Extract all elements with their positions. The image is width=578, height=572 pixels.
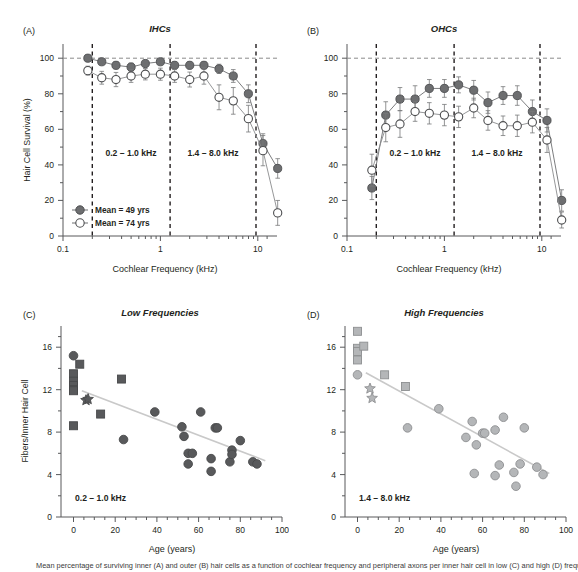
data-marker-filled — [484, 99, 492, 107]
panel-d-xlabel: Age (years) — [433, 544, 480, 554]
y-tick-16: 16 — [43, 342, 53, 352]
data-marker-open — [274, 209, 282, 217]
data-marker-filled — [84, 54, 92, 62]
data-marker-open — [455, 113, 463, 121]
y-tick-4: 4 — [47, 470, 52, 480]
data-marker-circle — [207, 467, 216, 476]
panel-a-plot: (A) IHCs 0 20 — [0, 0, 289, 286]
y-tick-60: 60 — [329, 124, 339, 134]
data-marker-open — [543, 136, 551, 144]
panel-c-low-frequencies: (C) Low Frequencies 0 4 8 12 — [0, 286, 289, 572]
data-marker-circle — [516, 460, 525, 469]
y-tick-80: 80 — [45, 89, 55, 99]
data-marker-filled — [513, 91, 521, 99]
data-marker-circle — [480, 429, 489, 438]
x-tick-80: 80 — [236, 525, 246, 535]
data-marker-square — [70, 422, 78, 430]
x-tick-10: 10 — [253, 244, 263, 254]
series-circles — [353, 371, 547, 491]
data-marker-open — [382, 123, 390, 131]
panel-b-x-ticklabels: 0.1 1 10 — [341, 244, 547, 254]
data-marker-filled — [440, 84, 448, 92]
y-tick-0: 0 — [47, 512, 52, 522]
panel-d-x-ticks — [358, 517, 567, 522]
series-stars — [81, 394, 94, 405]
panel-c-x-ticklabels: 0 20 40 60 80 100 — [71, 525, 289, 535]
data-marker-star — [367, 393, 378, 403]
panel-a-band-low: 0.2 – 1.0 kHz — [105, 148, 156, 158]
data-marker-open — [470, 104, 478, 112]
data-marker-square — [70, 387, 78, 395]
y-tick-8: 8 — [47, 427, 52, 437]
panel-a-y-ticklabels: 0 20 40 60 80 100 — [40, 53, 54, 241]
data-marker-square — [97, 410, 105, 418]
data-marker-circle — [151, 408, 160, 417]
panel-c-x-ticks — [74, 517, 283, 522]
panel-d-high-frequencies: (D) High Frequencies 0 4 8 12 — [289, 286, 578, 572]
data-marker-filled — [112, 61, 120, 69]
figure-container: (A) IHCs 0 20 — [0, 0, 578, 572]
data-marker-star — [365, 383, 376, 393]
data-marker-filled — [274, 164, 282, 172]
panel-c-y-ticklabels: 0 4 8 12 16 — [43, 342, 53, 522]
y-tick-0: 0 — [49, 231, 54, 241]
data-marker-open — [499, 122, 507, 130]
y-tick-60: 60 — [45, 124, 55, 134]
data-marker-circle — [533, 463, 542, 472]
panel-b-letter: (B) — [307, 26, 319, 36]
data-marker-filled — [455, 81, 463, 89]
series-mean-74 — [84, 66, 282, 225]
panel-c-plot: (C) Low Frequencies 0 4 8 12 — [0, 286, 289, 572]
data-marker-circle — [512, 482, 521, 491]
data-marker-square — [354, 327, 362, 335]
y-tick-100: 100 — [40, 53, 54, 63]
x-tick-0: 0 — [71, 525, 76, 535]
panel-b-xlabel: Cochlear Frequency (kHz) — [396, 264, 501, 274]
data-marker-circle — [510, 468, 519, 477]
data-marker-circle — [236, 436, 245, 445]
y-tick-4: 4 — [331, 470, 336, 480]
data-marker-open — [171, 72, 179, 80]
trendline — [366, 373, 549, 474]
y-tick-12: 12 — [327, 385, 337, 395]
data-marker-filled — [171, 61, 179, 69]
data-marker-open — [141, 70, 149, 78]
data-marker-open — [98, 74, 106, 82]
data-marker-filled — [244, 90, 252, 98]
figure-caption: Mean percentage of surviving inner (A) a… — [0, 559, 578, 572]
panel-d-x-ticklabels: 0 20 40 60 80 100 — [355, 525, 573, 535]
data-marker-circle — [472, 441, 481, 450]
data-marker-open — [244, 115, 252, 123]
panel-a-xlabel: Cochlear Frequency (kHz) — [112, 264, 217, 274]
panel-a-legend: Mean = 49 yrs Mean = 74 yrs — [72, 205, 150, 228]
data-marker-circle — [468, 417, 477, 426]
data-marker-circle — [207, 454, 216, 463]
data-marker-open — [112, 75, 120, 83]
data-marker-square — [381, 371, 389, 379]
data-marker-open — [84, 67, 92, 75]
data-marker-filled — [499, 91, 507, 99]
data-marker-open — [186, 75, 194, 83]
panel-c-letter: (C) — [23, 310, 36, 320]
data-marker-open — [200, 72, 208, 80]
panel-a-series-group — [84, 54, 282, 225]
x-tick-40: 40 — [152, 525, 162, 535]
data-marker-open — [259, 147, 267, 155]
panel-a-x-ticks — [63, 236, 267, 241]
panel-b-y-ticks — [342, 58, 347, 236]
data-marker-open — [513, 122, 521, 130]
data-marker-circle — [435, 404, 444, 413]
data-marker-square — [70, 370, 78, 378]
y-tick-8: 8 — [331, 427, 336, 437]
series-stars — [365, 383, 378, 403]
series-mean-74 — [368, 98, 566, 228]
data-marker-open — [411, 107, 419, 115]
x-tick-60: 60 — [194, 525, 204, 535]
x-tick-1: 1 — [158, 244, 163, 254]
y-tick-40: 40 — [329, 160, 339, 170]
y-tick-0: 0 — [333, 231, 338, 241]
x-tick-0p1: 0.1 — [341, 244, 353, 254]
panel-c-series-group — [69, 351, 265, 475]
data-marker-circle — [499, 413, 508, 422]
panel-b-title: OHCs — [431, 23, 457, 34]
